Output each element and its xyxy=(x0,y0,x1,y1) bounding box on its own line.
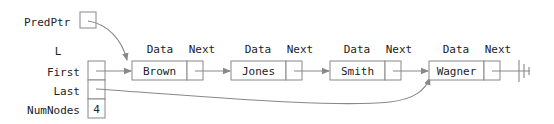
linked-list-diagram: PredPtr L First Last NumNodes 4 Data Nex… xyxy=(0,0,554,124)
node-3-data-header: Data xyxy=(344,43,371,56)
node-4-next-header: Next xyxy=(485,43,512,56)
node-4-data: Wagner xyxy=(437,65,477,78)
node-1-data-header: Data xyxy=(147,43,174,56)
node-3-data: Smith xyxy=(341,65,374,78)
last-arrow xyxy=(96,78,430,104)
node-1-next-header: Next xyxy=(189,43,216,56)
predptr-box xyxy=(80,12,96,28)
node-4-data-header: Data xyxy=(443,43,470,56)
field-label-numnodes: NumNodes xyxy=(27,104,80,117)
field-label-last: Last xyxy=(54,85,81,98)
predptr-label: PredPtr xyxy=(24,16,71,29)
numnodes-value: 4 xyxy=(93,103,100,116)
node-2-next-header: Next xyxy=(287,43,314,56)
field-label-first: First xyxy=(47,66,80,79)
node-1-data: Brown xyxy=(143,65,176,78)
node-2-data: Jones xyxy=(242,65,275,78)
list-name-label: L xyxy=(55,45,62,58)
node-2-data-header: Data xyxy=(245,43,272,56)
node-3-next-header: Next xyxy=(386,43,413,56)
